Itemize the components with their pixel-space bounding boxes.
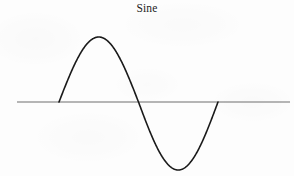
sine-plot-figure: Sine (0, 0, 294, 176)
sine-plot-canvas (0, 0, 294, 176)
sine-curve-path (59, 37, 218, 170)
